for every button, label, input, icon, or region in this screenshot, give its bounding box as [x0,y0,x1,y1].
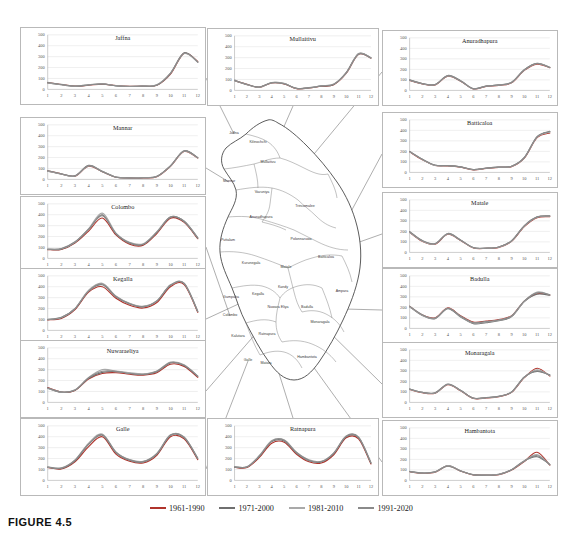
x-axis-tick-label: 11 [535,332,539,337]
x-axis-tick-label: 12 [196,334,200,339]
x-axis-tick-label: 4 [447,332,450,337]
y-axis-tick-label: 0 [404,400,407,405]
y-axis-tick-label: 200 [400,67,407,72]
panel-plot: 0100200300400500123456789101112Kegalla [21,269,205,345]
x-axis-tick-label: 10 [168,262,173,267]
x-axis-tick-label: 9 [156,262,159,267]
y-axis-tick-label: 200 [400,457,407,462]
x-axis-tick-label: 8 [142,406,145,411]
panel-title: Jaffna [115,34,130,41]
x-axis-tick-label: 1 [409,484,411,489]
y-axis-tick-label: 200 [38,155,45,160]
x-axis-tick-label: 6 [115,262,118,267]
y-axis-tick-label: 100 [38,245,45,250]
map-label-gampaha: Gampaha [223,295,239,299]
y-axis-tick-label: 200 [38,456,45,461]
x-axis-tick-label: 7 [308,484,311,489]
series-line-1981-2010 [48,53,198,86]
x-axis-tick-label: 2 [60,334,62,339]
x-axis-tick-label: 9 [156,93,159,98]
panel-title: Batticaloa [467,119,492,126]
x-axis-tick-label: 6 [472,256,475,261]
y-axis-tick-label: 400 [400,436,407,441]
y-axis-tick-label: 300 [38,223,45,228]
y-axis-tick-label: 300 [400,446,407,451]
x-axis-tick-label: 11 [535,256,539,261]
map-label-matale: Matale [281,265,292,269]
x-axis-tick-label: 3 [434,256,437,261]
x-axis-tick-label: 7 [485,94,488,99]
x-axis-tick-label: 5 [459,484,462,489]
series-line-1991-2020 [235,434,371,468]
y-axis-tick-label: 100 [400,467,407,472]
x-axis-tick-label: 8 [142,262,145,267]
legend-item-1981-2010: 1981-2010 [289,504,343,513]
legend-item-1971-2000: 1971-2000 [219,504,273,513]
x-axis-tick-label: 1 [47,93,49,98]
x-axis-tick-label: 7 [128,334,131,339]
map-label-matara: Matara [260,361,271,365]
x-axis-tick-label: 6 [115,484,118,489]
x-axis-tick-label: 6 [472,484,475,489]
x-axis-tick-label: 6 [115,183,118,188]
x-axis-tick-label: 2 [421,484,423,489]
x-axis-tick-label: 4 [88,484,91,489]
x-axis-tick-label: 9 [510,484,513,489]
y-axis-tick-label: 200 [38,306,45,311]
panel-plot: 0100200300400500123456789101112Anuradhap… [383,31,557,105]
y-axis-tick-label: 500 [400,425,407,430]
x-axis-tick-label: 2 [421,176,423,181]
x-axis-tick-label: 12 [548,332,552,337]
panel-plot: 0100200300400500123456789101112Mullaitiv… [208,29,378,105]
x-axis-tick-label: 4 [447,256,450,261]
x-axis-tick-label: 11 [182,406,186,411]
x-axis-tick-label: 10 [522,406,527,411]
map-label-polonnaruwa: Polonnaruwa [291,237,312,241]
y-axis-tick-label: 0 [43,400,46,405]
x-axis-tick-label: 6 [472,332,475,337]
x-axis-tick-label: 4 [447,176,450,181]
x-axis-tick-label: 12 [196,484,200,489]
y-axis-tick-label: 200 [38,65,45,70]
x-axis-tick-label: 1 [409,332,411,337]
y-axis-tick-label: 500 [225,423,232,428]
x-axis-tick-label: 3 [434,176,437,181]
y-axis-tick-label: 500 [38,122,45,127]
x-axis-tick-label: 10 [168,334,173,339]
y-axis-tick-label: 400 [38,133,45,138]
y-axis-tick-label: 200 [38,234,45,239]
chart-panel-mannar: 0100200300400500123456789101112Mannar [20,117,206,195]
x-axis-tick-label: 11 [182,183,186,188]
chart-panel-kegalla: 0100200300400500123456789101112Kegalla [20,268,206,346]
y-axis-tick-label: 200 [400,229,407,234]
series-line-1971-2000 [235,435,371,468]
series-line-1991-2020 [410,132,550,170]
series-line-1971-2000 [48,151,198,178]
series-line-1961-1990 [235,436,371,468]
series-line-1971-2000 [410,294,550,324]
panel-plot: 0100200300400500123456789101112Galle [21,419,205,495]
x-axis-tick-label: 2 [421,332,423,337]
x-axis-tick-label: 7 [128,484,131,489]
series-line-1971-2000 [48,363,198,393]
y-axis-tick-label: 400 [38,434,45,439]
map-label-kilinochchi: Kilinochchi [249,140,266,144]
x-axis-tick-label: 5 [101,484,104,489]
y-axis-tick-label: 500 [38,201,45,206]
x-axis-tick-label: 12 [548,94,552,99]
series-line-1961-1990 [410,368,550,399]
x-axis-tick-label: 2 [60,406,62,411]
x-axis-tick-label: 8 [142,93,145,98]
panel-plot: 0100200300400500123456789101112Matale [383,193,557,267]
legend-item-1961-1990: 1961-1990 [150,504,204,513]
x-axis-tick-label: 2 [246,94,248,99]
panel-title: Mullaitivu [290,35,316,42]
chart-panel-colombo: 0100200300400500123456789101112Colombo [20,196,206,274]
x-axis-tick-label: 8 [498,256,501,261]
chart-panel-monaragala: 0100200300400500123456789101112Monaragal… [382,342,558,418]
x-axis-tick-label: 8 [142,334,145,339]
y-axis-tick-label: 0 [43,177,46,182]
x-axis-tick-label: 4 [271,94,274,99]
y-axis-tick-label: 200 [400,379,407,384]
series-line-1971-2000 [410,371,550,398]
